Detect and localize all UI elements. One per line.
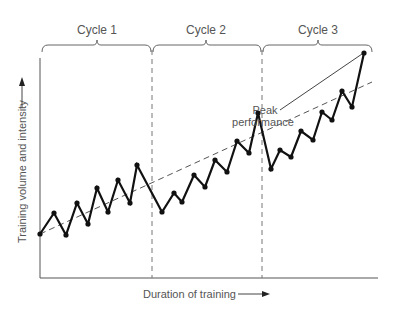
data-point bbox=[51, 210, 56, 215]
data-point bbox=[105, 209, 110, 214]
data-point bbox=[85, 221, 90, 226]
data-point bbox=[234, 138, 239, 143]
data-point bbox=[127, 200, 132, 205]
cycle-brace-1 bbox=[42, 40, 151, 52]
data-point bbox=[94, 185, 99, 190]
data-point bbox=[288, 154, 293, 159]
data-point bbox=[298, 128, 303, 133]
data-point bbox=[171, 190, 176, 195]
peak-label-1: Peak bbox=[252, 104, 278, 116]
training-load-line bbox=[40, 53, 364, 235]
data-point bbox=[202, 184, 207, 189]
data-point bbox=[268, 166, 273, 171]
cycle-1-label: Cycle 1 bbox=[77, 23, 117, 37]
data-point bbox=[159, 209, 164, 214]
data-point bbox=[246, 150, 251, 155]
data-point bbox=[339, 88, 344, 93]
data-point bbox=[361, 50, 366, 55]
data-point bbox=[37, 231, 42, 236]
data-point bbox=[277, 147, 282, 152]
trend-line bbox=[40, 82, 372, 234]
cycle-brace-3 bbox=[263, 40, 372, 52]
peak-label-2: performance bbox=[232, 116, 294, 128]
training-load-points bbox=[37, 50, 366, 237]
data-point bbox=[191, 172, 196, 177]
data-point bbox=[319, 109, 324, 114]
cycle-brace-2 bbox=[153, 40, 261, 52]
data-point bbox=[329, 117, 334, 122]
cycle-3-label: Cycle 3 bbox=[298, 23, 338, 37]
data-point bbox=[179, 199, 184, 204]
data-point bbox=[310, 137, 315, 142]
data-point bbox=[63, 232, 68, 237]
x-arrow-head-icon bbox=[262, 291, 270, 297]
data-point bbox=[134, 162, 139, 167]
x-axis-label: Duration of training bbox=[143, 288, 236, 300]
data-point bbox=[212, 157, 217, 162]
cycle-2-label: Cycle 2 bbox=[186, 23, 226, 37]
periodization-chart: Cycle 1 Cycle 2 Cycle 3 Peak performance… bbox=[0, 0, 397, 315]
data-point bbox=[349, 104, 354, 109]
data-point bbox=[115, 177, 120, 182]
y-arrow-head-icon bbox=[19, 77, 25, 86]
data-point bbox=[224, 169, 229, 174]
data-point bbox=[74, 200, 79, 205]
y-axis-label: Training volume and intensity bbox=[16, 100, 28, 243]
